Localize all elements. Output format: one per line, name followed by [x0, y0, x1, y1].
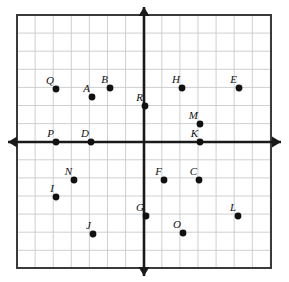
- plotted-point-a: [89, 94, 96, 101]
- plotted-point-i: [53, 194, 60, 201]
- plotted-point-b: [107, 85, 114, 92]
- y-axis-arrow-up: [139, 7, 150, 16]
- plotted-point-d: [88, 139, 95, 146]
- plotted-point-q: [53, 86, 60, 93]
- y-axis-arrow-down: [139, 267, 150, 276]
- plotted-point-k: [197, 139, 204, 146]
- plotted-point-c: [196, 177, 203, 184]
- grid-and-axes-canvas: [0, 0, 289, 282]
- coordinate-grid-figure: QABRHEMKPDNIFCGLJO: [0, 0, 289, 282]
- plotted-point-o: [180, 230, 187, 237]
- plotted-point-g: [143, 213, 150, 220]
- plotted-point-n: [71, 177, 78, 184]
- plotted-point-f: [161, 177, 168, 184]
- plotted-point-m: [197, 121, 204, 128]
- plotted-point-e: [236, 85, 243, 92]
- plotted-point-r: [142, 103, 149, 110]
- x-axis-arrow-left: [8, 137, 17, 148]
- plotted-point-l: [235, 213, 242, 220]
- x-axis-arrow-right: [272, 137, 281, 148]
- plotted-point-h: [179, 85, 186, 92]
- plotted-point-p: [53, 139, 60, 146]
- plotted-point-j: [90, 231, 97, 238]
